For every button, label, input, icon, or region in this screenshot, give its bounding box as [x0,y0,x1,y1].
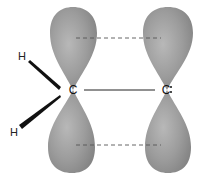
wedge-bond-top-h [28,60,61,90]
left-carbon-label: C [69,83,78,97]
right-top-lobe [143,7,193,90]
left-top-lobe [50,7,97,90]
right-bottom-lobe [145,90,191,173]
right-carbon-label: C [162,83,171,97]
p-orbital-diagram: C C H H [0,0,198,180]
top-hydrogen-label: H [18,50,26,62]
bottom-hydrogen-label: H [10,126,18,138]
left-bottom-lobe [48,90,95,173]
